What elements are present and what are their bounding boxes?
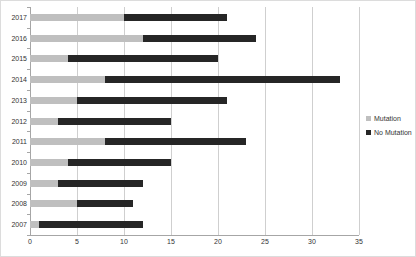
x-tick-label-5: 5 [67,238,87,245]
legend-swatch-no-mutation [366,130,371,135]
bar-no-mutation-2014 [105,76,340,83]
x-axis-line [30,235,359,236]
y-tick-label-2009: 2009 [1,179,28,188]
bar-mutation-2016 [30,35,143,42]
bar-no-mutation-2011 [105,138,246,145]
x-tick-label-30: 30 [302,238,322,245]
legend-swatch-mutation [366,116,371,121]
bar-no-mutation-2015 [68,55,218,62]
y-tick-label-2015: 2015 [1,54,28,63]
category-tick [27,131,30,132]
bar-no-mutation-2010 [68,159,171,166]
category-tick [27,90,30,91]
plot-area [30,7,359,235]
bar-no-mutation-2009 [58,180,143,187]
bar-mutation-2014 [30,76,105,83]
bar-mutation-2017 [30,14,124,21]
x-tick-label-10: 10 [114,238,134,245]
category-tick [27,235,30,236]
x-tick-label-35: 35 [349,238,369,245]
bar-mutation-2013 [30,97,77,104]
category-tick [27,7,30,8]
y-tick-label-2016: 2016 [1,34,28,43]
bar-no-mutation-2007 [39,221,142,228]
bar-mutation-2009 [30,180,58,187]
bar-mutation-2015 [30,55,68,62]
y-tick-label-2010: 2010 [1,158,28,167]
bar-no-mutation-2013 [77,97,227,104]
x-tick-label-25: 25 [255,238,275,245]
bar-no-mutation-2017 [124,14,227,21]
bar-mutation-2007 [30,221,39,228]
category-tick [27,152,30,153]
y-tick-label-2008: 2008 [1,199,28,208]
bar-mutation-2010 [30,159,68,166]
bar-no-mutation-2012 [58,118,171,125]
bar-mutation-2012 [30,118,58,125]
bar-no-mutation-2016 [143,35,256,42]
category-tick [27,48,30,49]
legend-item-mutation: Mutation [366,114,412,123]
bar-no-mutation-2008 [77,200,133,207]
y-tick-label-2014: 2014 [1,75,28,84]
category-tick [27,28,30,29]
x-tick-label-0: 0 [20,238,40,245]
y-tick-label-2007: 2007 [1,220,28,229]
legend: Mutation No Mutation [366,114,412,142]
x-tick-label-20: 20 [208,238,228,245]
y-tick-label-2017: 2017 [1,13,28,22]
category-tick [27,173,30,174]
category-tick [27,194,30,195]
x-tick-label-15: 15 [161,238,181,245]
gridline-35 [359,7,360,235]
category-tick [27,214,30,215]
stacked-bar-chart: 2017201620152014201320122011201020092008… [0,0,416,257]
bar-mutation-2008 [30,200,77,207]
category-tick [27,69,30,70]
y-tick-label-2012: 2012 [1,117,28,126]
legend-label-no-mutation: No Mutation [374,129,412,136]
bar-mutation-2011 [30,138,105,145]
gridline-25 [265,7,266,235]
y-tick-label-2011: 2011 [1,137,28,146]
gridline-30 [312,7,313,235]
legend-item-no-mutation: No Mutation [366,128,412,137]
y-tick-label-2013: 2013 [1,96,28,105]
legend-label-mutation: Mutation [374,115,401,122]
category-tick [27,111,30,112]
